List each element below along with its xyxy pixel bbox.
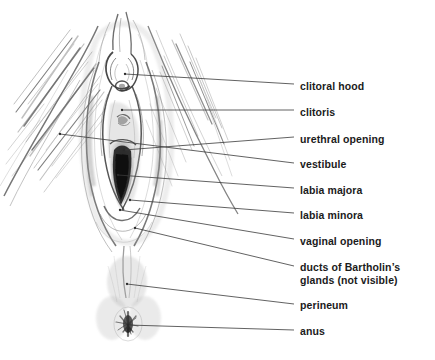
leader-dot-labia-minora [129, 199, 131, 201]
label-clitoris: clitoris [300, 106, 335, 119]
label-anus: anus [300, 325, 325, 338]
leader-dot-vaginal-opening [119, 209, 121, 211]
label-vestibule: vestibule [300, 158, 346, 171]
label-perineum: perineum [300, 299, 348, 312]
leader-dot-clitoral-hood [124, 73, 126, 75]
label-clitoral-hood: clitoral hood [300, 80, 364, 93]
label-labia-minora: labia minora [300, 209, 363, 222]
leader-dot-ducts-of-bartholins-glands [134, 227, 136, 229]
leader-dot-anus [127, 324, 129, 326]
leader-dot-perineum [126, 283, 128, 285]
anatomical-illustration [0, 0, 435, 360]
leader-dot-clitoris [121, 109, 123, 111]
label-labia-majora: labia majora [300, 184, 362, 197]
leader-dot-labia-majora [117, 174, 119, 176]
leader-dot-urethral-opening [123, 149, 125, 151]
label-ducts-of-bartholins-glands: ducts of Bartholin’s glands (not visible… [300, 261, 432, 286]
label-vaginal-opening: vaginal opening [300, 235, 381, 248]
label-urethral-opening: urethral opening [300, 133, 384, 146]
leader-dot-vestibule [59, 133, 61, 135]
